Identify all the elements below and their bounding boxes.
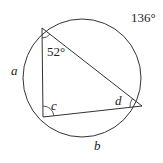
side-left: [42, 28, 43, 117]
angle-arc-right: [130, 99, 133, 108]
circle-triangle-diagram: 52° 136° a b c d: [0, 0, 163, 163]
label-angle-d: d: [115, 93, 122, 108]
label-angle-c: c: [51, 98, 57, 113]
label-top-angle: 52°: [47, 44, 65, 59]
label-arc-a: a: [11, 63, 18, 78]
label-arc-136: 136°: [131, 10, 156, 25]
circle: [23, 19, 141, 137]
angle-arc-top: [42, 34, 50, 38]
label-arc-b: b: [94, 138, 101, 153]
